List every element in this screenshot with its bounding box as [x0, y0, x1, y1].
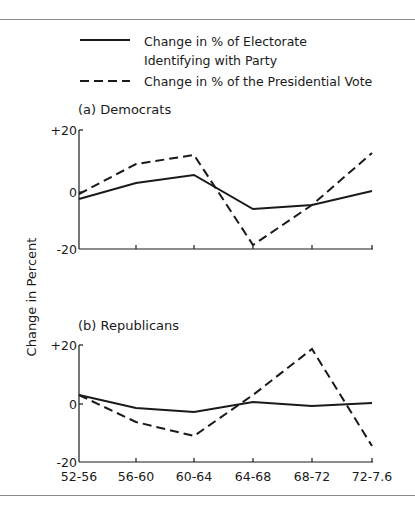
- legend-solid-label-1: Change in % of Electorate: [144, 34, 307, 49]
- panel-b-axes: [79, 345, 373, 462]
- panel-b-vote-line: [79, 349, 372, 446]
- panel-a-title: (a) Democrats: [78, 102, 171, 117]
- panel-b-ytick-top: +20: [51, 338, 77, 353]
- legend-solid-label-2: Identifying with Party: [144, 53, 278, 68]
- panel-b-ytick-bottom: -20: [57, 455, 77, 470]
- xtick-label: 72-7.6: [352, 469, 392, 484]
- xtick-label: 60-64: [176, 469, 212, 484]
- panel-b-ytick-zero: 0: [69, 397, 77, 412]
- legend: Change in % of Electorate Identifying wi…: [80, 34, 373, 89]
- panel-b-electorate-line: [79, 395, 372, 412]
- xtick-label: 56-60: [118, 469, 154, 484]
- x-tick-labels: 52-56 56-60 60-64 64-68 68-72 72-7.6: [61, 469, 392, 484]
- y-axis-label: Change in Percent: [24, 238, 39, 357]
- panel-a-ytick-top: +20: [51, 123, 77, 138]
- legend-dashed-label: Change in % of the Presidential Vote: [144, 74, 373, 89]
- chart-canvas: Change in % of Electorate Identifying wi…: [0, 0, 415, 507]
- panel-b-title: (b) Republicans: [78, 318, 179, 333]
- panel-a-ytick-zero: 0: [69, 185, 77, 200]
- xtick-label: 68-72: [294, 469, 330, 484]
- xtick-label: 64-68: [235, 469, 271, 484]
- panel-a-vote-line: [79, 153, 372, 245]
- panel-a-ytick-bottom: -20: [57, 242, 77, 257]
- xtick-label: 52-56: [61, 469, 97, 484]
